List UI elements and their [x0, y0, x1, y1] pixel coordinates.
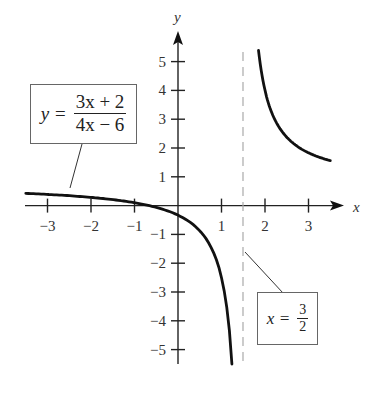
y-tick-label: 1: [159, 169, 167, 185]
asym-denominator: 2: [297, 319, 308, 335]
y-axis: [173, 31, 183, 364]
y-tick-label: −2: [150, 255, 166, 271]
x-axis-label: x: [352, 199, 360, 215]
function-graph: −3−2−1123 54321−1−2−3−4−5 x y: [0, 0, 378, 396]
y-tick-label: −1: [150, 226, 166, 242]
fn-fraction: 3x + 2 4x − 6: [74, 92, 127, 136]
y-tick-label: 2: [159, 140, 167, 156]
x-tick-label: 1: [218, 218, 226, 234]
fn-numerator: 3x + 2: [74, 92, 127, 114]
y-axis-label: y: [172, 9, 181, 25]
asym-leader-line: [245, 252, 283, 293]
y-tick-label: 5: [159, 54, 167, 70]
x-axis: [25, 201, 344, 211]
asymptote-equation-box: x = 3 2: [257, 292, 318, 345]
y-tick-label: −4: [150, 313, 166, 329]
x-tick-label: −2: [83, 218, 99, 234]
x-tick-label: 2: [261, 218, 269, 234]
x-ticks: −3−2−1123: [40, 199, 313, 234]
fn-denominator: 4x − 6: [74, 114, 127, 136]
asym-fraction: 3 2: [297, 302, 308, 334]
asym-numerator: 3: [297, 302, 308, 318]
fn-leader-line: [70, 144, 82, 188]
fn-lhs: y =: [41, 103, 67, 125]
x-tick-label: −3: [40, 218, 56, 234]
function-equation-box: y = 3x + 2 4x − 6: [30, 84, 137, 144]
x-tick-label: −1: [127, 218, 143, 234]
y-tick-label: 3: [159, 111, 167, 127]
y-tick-label: −3: [150, 284, 166, 300]
y-tick-label: −5: [150, 342, 166, 358]
y-tick-label: 4: [159, 82, 167, 98]
asym-lhs: x =: [267, 309, 290, 329]
x-tick-label: 3: [305, 218, 313, 234]
curve-right-branch: [259, 50, 331, 160]
